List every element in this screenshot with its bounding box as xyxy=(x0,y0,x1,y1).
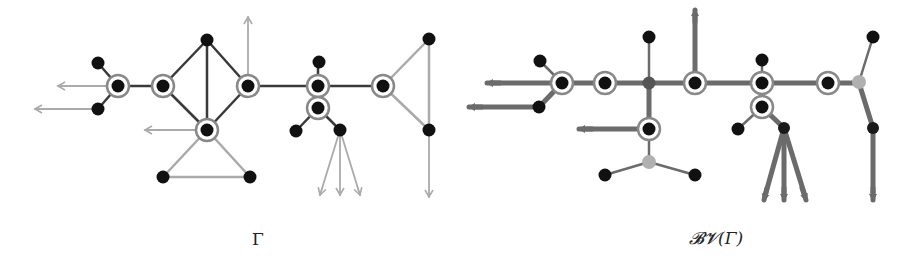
vertex-core xyxy=(556,77,569,90)
caption-gamma: Γ xyxy=(252,229,264,249)
vertex xyxy=(157,171,170,184)
vertex-core xyxy=(242,80,255,93)
vertex xyxy=(313,56,326,69)
thick-arrow xyxy=(764,188,767,200)
vertex xyxy=(867,122,879,134)
graph-gamma xyxy=(35,17,436,197)
vertex xyxy=(867,31,880,44)
vertex-core xyxy=(756,101,769,114)
vertex-core xyxy=(377,80,390,93)
vertex xyxy=(244,171,257,184)
vertex-core xyxy=(599,77,612,90)
vertex xyxy=(290,125,303,138)
vertex xyxy=(92,57,105,70)
outgoing-arrow xyxy=(320,130,340,195)
vertex-core xyxy=(643,123,656,136)
vertex xyxy=(533,101,546,114)
caption-bv-gamma: 𝓑𝓥(Γ) xyxy=(689,228,743,248)
vertex xyxy=(689,169,702,182)
vertex xyxy=(334,124,347,137)
diagram-canvas xyxy=(0,0,905,264)
graph-bv-gamma xyxy=(469,10,880,200)
vertex xyxy=(92,103,105,116)
vertex xyxy=(423,124,436,137)
hub-vertex xyxy=(643,77,656,90)
vertex xyxy=(643,31,656,44)
vertex xyxy=(778,122,790,134)
vertex xyxy=(599,169,612,182)
light-vertex xyxy=(642,155,656,169)
vertex-core xyxy=(756,77,769,90)
vertex xyxy=(534,55,547,68)
vertex-core xyxy=(157,80,170,93)
vertex-core xyxy=(112,80,125,93)
vertex xyxy=(756,54,769,67)
vertex xyxy=(423,33,436,46)
vertex-core xyxy=(312,80,325,93)
vertex-core xyxy=(822,77,835,90)
vertex-core xyxy=(689,77,702,90)
vertex-core xyxy=(312,102,325,115)
outgoing-arrow xyxy=(340,130,360,195)
thin-edge xyxy=(859,37,873,82)
vertex xyxy=(732,123,745,136)
vertex xyxy=(201,34,214,47)
light-vertex xyxy=(852,75,866,89)
thick-edge xyxy=(859,83,873,128)
vertex-core xyxy=(201,124,214,137)
thin-edge xyxy=(649,162,695,175)
